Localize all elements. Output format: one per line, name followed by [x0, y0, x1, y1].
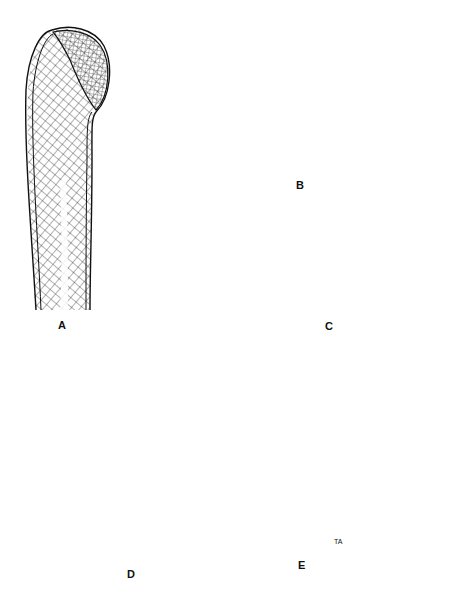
panel-label-c: C — [325, 320, 333, 332]
panel-label-e: E — [298, 559, 305, 571]
panel-label-d: D — [127, 568, 135, 580]
panel-label-b: B — [296, 179, 304, 191]
panel-a-humerus — [26, 27, 110, 310]
panel-label-a: A — [58, 319, 66, 331]
anatomical-figure — [0, 0, 472, 607]
artist-signature: TA — [334, 538, 342, 545]
